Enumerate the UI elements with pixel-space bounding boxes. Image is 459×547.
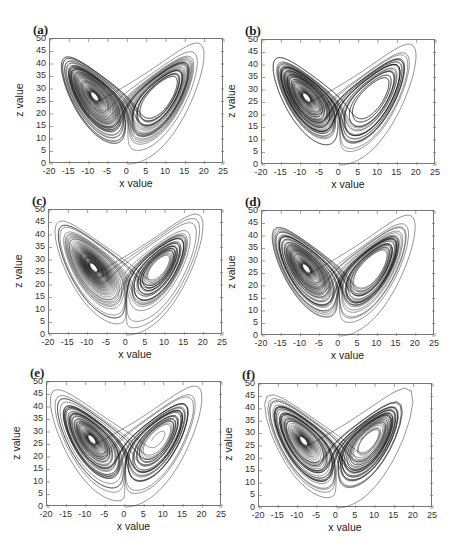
attractor-plot bbox=[262, 40, 436, 165]
x-axis-label: x value bbox=[308, 349, 388, 361]
plot-area bbox=[48, 209, 222, 334]
x-tick-label: 15 bbox=[386, 168, 406, 177]
y-tick-label: 25 bbox=[238, 268, 258, 277]
y-tick-label: 30 bbox=[238, 85, 258, 94]
plot-area bbox=[261, 39, 435, 164]
y-axis-label: z value bbox=[13, 70, 25, 130]
x-tick-label: 10 bbox=[367, 168, 387, 177]
y-tick-label: 50 bbox=[25, 205, 45, 214]
plot-area bbox=[261, 210, 434, 335]
y-axis-label: z value bbox=[225, 242, 237, 302]
x-tick-label: 5 bbox=[135, 338, 155, 347]
plot-area bbox=[46, 381, 221, 506]
x-tick-label: 15 bbox=[172, 510, 192, 519]
x-tick-label: -20 bbox=[36, 510, 56, 519]
x-tick-label: -15 bbox=[270, 339, 290, 348]
y-tick-label: 40 bbox=[26, 59, 46, 68]
x-axis-label: x value bbox=[308, 178, 388, 190]
x-tick-label: 15 bbox=[173, 338, 193, 347]
x-tick-label: 20 bbox=[405, 339, 425, 348]
x-tick-label: 5 bbox=[345, 511, 365, 520]
x-tick-label: -5 bbox=[94, 510, 114, 519]
x-tick-label: 0 bbox=[325, 511, 345, 520]
trajectory-line bbox=[51, 386, 202, 507]
y-tick-label: 45 bbox=[235, 391, 255, 400]
trajectory-line bbox=[273, 44, 416, 165]
x-tick-label: -20 bbox=[39, 167, 59, 176]
y-tick-label: 50 bbox=[23, 377, 43, 386]
x-tick-label: -10 bbox=[77, 338, 97, 347]
x-tick-label: -10 bbox=[290, 168, 310, 177]
x-tick-label: 0 bbox=[328, 168, 348, 177]
y-tick-label: 5 bbox=[238, 147, 258, 156]
y-tick-label: 15 bbox=[235, 465, 255, 474]
y-tick-label: 20 bbox=[26, 109, 46, 118]
y-tick-label: 20 bbox=[23, 452, 43, 461]
y-axis-label: z value bbox=[10, 413, 22, 473]
y-tick-label: 20 bbox=[235, 453, 255, 462]
x-tick-label: 10 bbox=[154, 338, 174, 347]
trajectory-line bbox=[272, 215, 415, 336]
y-tick-label: 5 bbox=[23, 489, 43, 498]
y-tick-label: 5 bbox=[238, 318, 258, 327]
y-tick-label: 10 bbox=[23, 477, 43, 486]
x-axis-label: x value bbox=[95, 348, 175, 360]
x-tick-label: -20 bbox=[38, 338, 58, 347]
x-tick-label: 5 bbox=[347, 339, 367, 348]
y-tick-label: 45 bbox=[238, 47, 258, 56]
x-tick-label: 0 bbox=[116, 167, 136, 176]
y-tick-label: 50 bbox=[238, 206, 258, 215]
y-tick-label: 10 bbox=[238, 135, 258, 144]
y-tick-label: 5 bbox=[235, 490, 255, 499]
x-tick-label: 25 bbox=[424, 339, 444, 348]
x-tick-label: 20 bbox=[406, 168, 426, 177]
y-tick-label: 5 bbox=[26, 146, 46, 155]
x-tick-label: 10 bbox=[155, 167, 175, 176]
x-tick-label: 20 bbox=[403, 511, 423, 520]
x-tick-label: -10 bbox=[287, 511, 307, 520]
x-tick-label: 25 bbox=[212, 338, 232, 347]
x-tick-label: -5 bbox=[309, 168, 329, 177]
x-tick-label: 20 bbox=[192, 510, 212, 519]
attractor-plot bbox=[49, 210, 223, 335]
y-axis-label: z value bbox=[222, 414, 234, 474]
x-tick-label: -15 bbox=[270, 168, 290, 177]
y-tick-label: 40 bbox=[238, 60, 258, 69]
x-tick-label: 20 bbox=[193, 338, 213, 347]
y-tick-label: 35 bbox=[235, 416, 255, 425]
y-tick-label: 30 bbox=[26, 84, 46, 93]
x-tick-label: 10 bbox=[366, 339, 386, 348]
y-tick-label: 25 bbox=[26, 96, 46, 105]
y-tick-label: 10 bbox=[26, 134, 46, 143]
x-tick-label: 15 bbox=[386, 339, 406, 348]
y-tick-label: 45 bbox=[25, 217, 45, 226]
y-axis-label: z value bbox=[12, 241, 24, 301]
y-tick-label: 45 bbox=[23, 389, 43, 398]
y-tick-label: 20 bbox=[238, 110, 258, 119]
y-tick-label: 30 bbox=[23, 427, 43, 436]
y-tick-label: 30 bbox=[235, 428, 255, 437]
x-tick-label: -5 bbox=[97, 167, 117, 176]
y-tick-label: 40 bbox=[23, 402, 43, 411]
y-tick-label: 15 bbox=[238, 293, 258, 302]
y-tick-label: 25 bbox=[238, 97, 258, 106]
y-tick-label: 15 bbox=[25, 292, 45, 301]
x-tick-label: 25 bbox=[213, 167, 233, 176]
y-tick-label: 35 bbox=[25, 242, 45, 251]
y-tick-label: 15 bbox=[26, 121, 46, 130]
y-tick-label: 25 bbox=[25, 267, 45, 276]
y-tick-label: 35 bbox=[238, 243, 258, 252]
attractor-plot bbox=[50, 39, 224, 164]
y-tick-label: 30 bbox=[238, 256, 258, 265]
y-tick-label: 50 bbox=[26, 34, 46, 43]
plot-area bbox=[258, 383, 432, 507]
trajectory-line bbox=[61, 43, 204, 164]
x-tick-label: -5 bbox=[306, 511, 326, 520]
y-tick-label: 45 bbox=[238, 218, 258, 227]
x-tick-label: -10 bbox=[78, 167, 98, 176]
x-tick-label: 5 bbox=[133, 510, 153, 519]
y-tick-label: 20 bbox=[238, 281, 258, 290]
y-tick-label: 15 bbox=[23, 464, 43, 473]
y-tick-label: 5 bbox=[25, 317, 45, 326]
attractor-plot bbox=[47, 382, 222, 507]
